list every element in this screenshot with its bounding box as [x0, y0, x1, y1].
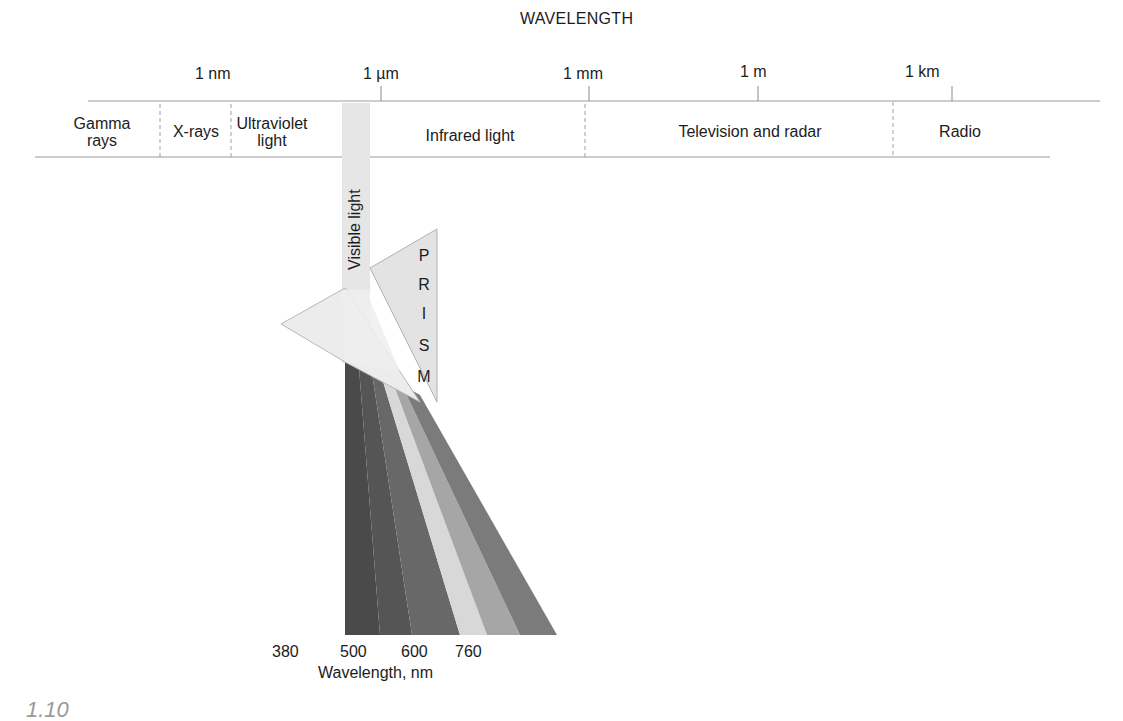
region-label: Gamma	[62, 115, 142, 132]
spectrum-axis-label: Wavelength, nm	[318, 664, 433, 682]
spectrum-tick-760: 760	[455, 643, 482, 661]
tick-label-1nm: 1 nm	[195, 65, 231, 83]
region-gamma-rays: Gamma rays	[62, 115, 142, 149]
spectrum-tick-600: 600	[401, 643, 428, 661]
visible-light-label: Visible light	[346, 189, 364, 270]
figure-number: 1.10	[26, 697, 69, 721]
tick-label-1um: 1 µm	[363, 65, 399, 83]
prism-letter-i: I	[414, 305, 434, 323]
region-ultraviolet: Ultraviolet light	[232, 115, 312, 149]
region-radio: Radio	[920, 123, 1000, 140]
region-infrared: Infrared light	[400, 127, 540, 144]
prism-letter-m: M	[414, 368, 434, 386]
prism-letter-p: P	[414, 247, 434, 265]
region-television-radar: Television and radar	[650, 123, 850, 140]
tick-label-1km: 1 km	[905, 63, 940, 81]
region-label: rays	[62, 132, 142, 149]
prism-letter-r: R	[414, 276, 434, 294]
wavelength-title: WAVELENGTH	[520, 10, 633, 28]
spectrum-tick-380: 380	[272, 643, 299, 661]
spectrum-tick-500: 500	[340, 643, 367, 661]
spectrum-fan	[345, 355, 557, 635]
region-label: Ultraviolet	[232, 115, 312, 132]
tick-label-1m: 1 m	[740, 63, 767, 81]
region-x-rays: X-rays	[161, 123, 231, 140]
tick-label-1mm: 1 mm	[563, 65, 603, 83]
prism-letter-s: S	[414, 337, 434, 355]
region-label: light	[232, 132, 312, 149]
